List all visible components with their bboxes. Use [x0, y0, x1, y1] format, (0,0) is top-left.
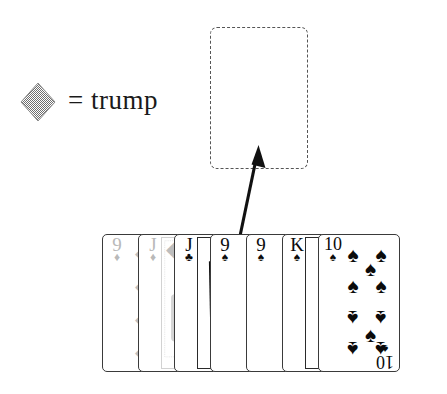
card-pip-center-top: ♠	[365, 259, 376, 280]
card-corner-rank-suit: 9 ♠	[215, 236, 235, 264]
card-corner-rank-suit: 9 ♠	[251, 236, 271, 264]
figure-canvas: = trump 9 ♦ ◆ ◆ ◆ ◆	[0, 0, 447, 394]
card-corner-rank-suit: J ♦	[143, 236, 163, 264]
card-pip-column-left: ♠ ♠ ♠ ♠	[341, 245, 365, 359]
trump-legend: = trump	[18, 82, 158, 122]
card-10-spades[interactable]: 10 ♠ 10 ♠ ♠ ♠ ♠ ♠ ♠ ♠ ♠	[318, 234, 400, 372]
card-pip-center-bottom: ♠	[365, 325, 376, 346]
diamond-suit-icon	[18, 82, 58, 122]
empty-card-slot[interactable]	[210, 27, 308, 169]
trump-legend-label: = trump	[68, 87, 158, 118]
player-hand: 9 ♦ ◆ ◆ ◆ ◆ J ♦	[102, 234, 402, 374]
card-corner-rank-suit: J ♣	[179, 236, 199, 264]
card-corner-rank-suit: K ♠	[287, 236, 307, 264]
card-corner-rank-suit: 10 ♠	[323, 236, 343, 263]
card-corner-rank-suit: 9 ♦	[107, 236, 127, 264]
